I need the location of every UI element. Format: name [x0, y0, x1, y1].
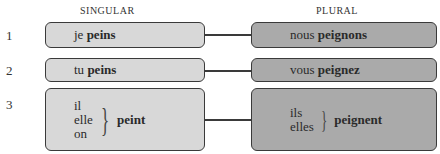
plural-box-2: vous peignez — [251, 58, 437, 82]
pronoun-tu: tu — [74, 62, 84, 78]
row-number-2: 2 — [6, 63, 13, 79]
pronoun-list-plural: ils elles — [290, 106, 314, 134]
header-singular: SINGULAR — [80, 5, 135, 16]
singular-box-3: il elle on } peint — [45, 88, 205, 151]
pronoun-vous: vous — [290, 62, 315, 78]
pronoun-je: je — [74, 27, 83, 43]
verb-peignons: peignons — [318, 27, 367, 43]
header-plural: PLURAL — [316, 5, 358, 16]
brace-icon: } — [101, 103, 109, 137]
brace-icon: } — [321, 107, 327, 133]
singular-box-1: je peins — [45, 22, 205, 48]
verb-peignent: peignent — [334, 112, 382, 128]
pronoun-list-singular: il elle on — [74, 99, 93, 141]
plural-box-1: nous peignons — [251, 22, 437, 48]
row-number-1: 1 — [6, 28, 13, 44]
pronoun-nous: nous — [290, 27, 315, 43]
connector-2 — [205, 70, 252, 72]
row-number-3: 3 — [6, 97, 13, 113]
connector-3 — [205, 119, 252, 121]
pronoun-elle: elle — [74, 113, 93, 127]
verb-peins-1: peins — [87, 27, 116, 43]
pronoun-on: on — [74, 127, 93, 141]
connector-1 — [205, 34, 252, 36]
verb-peins-2: peins — [87, 62, 116, 78]
pronoun-ils: ils — [290, 106, 314, 120]
plural-box-3: ils elles } peignent — [251, 88, 437, 151]
singular-box-2: tu peins — [45, 58, 205, 82]
verb-peignez: peignez — [318, 62, 360, 78]
verb-peint: peint — [117, 112, 145, 128]
pronoun-il: il — [74, 99, 93, 113]
pronoun-elles: elles — [290, 120, 314, 134]
